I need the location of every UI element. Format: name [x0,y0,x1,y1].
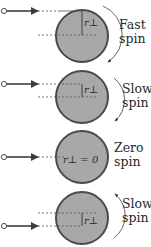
spin-label-line1: Slow [122,196,151,211]
projectile [1,154,38,159]
r-perp-label: r⊥ [84,84,98,95]
r-perp-label: r⊥ [84,17,98,28]
r-perp-label: r⊥ [84,215,98,226]
projectile [1,8,38,13]
spin-label-line1: Zero [114,140,144,155]
panel-zero-spin: r⊥ = 0 Zero spin [1,131,143,183]
spin-label-line1: Slow [122,81,151,96]
r-perp-label: r⊥ = 0 [63,154,99,165]
projectile-ball-icon [1,223,6,228]
spin-label-line2: spin [114,154,140,169]
spin-diagram: r⊥ Fast spin r⊥ Slow spin r⊥ = 0 Zero [0,0,151,247]
spin-label-line2: spin [122,95,148,110]
panel-slow-spin-ccw: r⊥ Slow spin [1,192,151,244]
projectile-ball-icon [1,81,6,86]
spin-label-line2: spin [119,31,145,46]
projectile-ball-icon [1,154,6,159]
spin-label-line1: Fast [119,17,146,32]
projectile-ball-icon [1,8,6,13]
panel-fast-spin: r⊥ Fast spin [1,6,145,62]
spin-label-line2: spin [122,210,148,225]
projectile [1,223,38,228]
panel-slow-spin-cw: r⊥ Slow spin [1,71,151,123]
projectile [1,81,38,86]
